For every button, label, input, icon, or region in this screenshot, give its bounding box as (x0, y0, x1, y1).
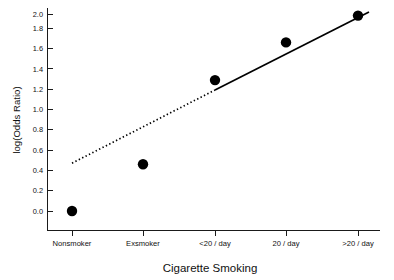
x-tick-label-exsmoker: Exsmoker (126, 239, 160, 248)
y-tick-label-1.4: 1.4 (33, 65, 43, 74)
x-tick-label-nonsmoker: Nonsmoker (53, 239, 92, 248)
x-tick-label-lt20-day: <20 / day (199, 239, 231, 248)
data-point-nonsmoker (67, 206, 77, 216)
y-tick-label-0.8: 0.8 (33, 125, 43, 134)
y-tick-label-0.0: 0.0 (33, 207, 43, 216)
scatter-plot-canvas: 2.0 1.8 1.6 1.4 1.2 1.0 0.8 0.6 0.4 0.2 … (0, 0, 394, 280)
axis-frame (48, 8, 381, 231)
y-tick-label-0.6: 0.6 (33, 146, 43, 155)
data-point-exsmoker (138, 159, 148, 169)
x-tick-label-gt20-day: >20 / day (342, 239, 374, 248)
data-point-gt20-day (353, 10, 363, 20)
x-axis-ticks (72, 231, 358, 236)
y-tick-label-1.8: 1.8 (33, 24, 43, 33)
x-axis-title: Cigarette Smoking (163, 262, 258, 274)
y-axis-ticks (48, 14, 53, 211)
y-tick-label-0.2: 0.2 (33, 186, 43, 195)
y-tick-label-2.0: 2.0 (33, 10, 43, 19)
y-tick-label-0.4: 0.4 (33, 166, 43, 175)
data-point-lt20-day (210, 75, 220, 85)
y-tick-label-1.6: 1.6 (33, 44, 43, 53)
y-tick-label-1.2: 1.2 (33, 85, 43, 94)
data-point-20-day (281, 37, 291, 47)
chart-figure: 2.0 1.8 1.6 1.4 1.2 1.0 0.8 0.6 0.4 0.2 … (0, 0, 394, 280)
x-tick-label-20-day: 20 / day (272, 239, 299, 248)
trend-line-dotted-segment (72, 90, 215, 163)
y-axis-title: log(Odds Ratio) (11, 86, 22, 153)
x-axis-tick-labels: Nonsmoker Exsmoker <20 / day 20 / day >2… (53, 239, 374, 248)
trend-line-solid-segment (215, 12, 369, 90)
data-point-markers (67, 10, 363, 216)
y-tick-label-1.0: 1.0 (33, 105, 43, 114)
y-axis-tick-labels: 2.0 1.8 1.6 1.4 1.2 1.0 0.8 0.6 0.4 0.2 … (33, 10, 43, 216)
